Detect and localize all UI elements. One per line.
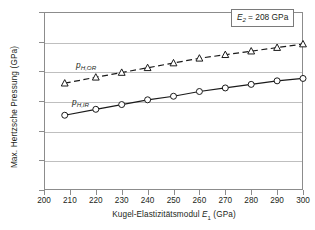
- data-point-marker: [274, 44, 281, 50]
- data-point-marker: [274, 78, 280, 84]
- data-point-marker: [145, 97, 151, 103]
- x-axis-title: Kugel-Elastizitätsmodul E1 (GPa): [44, 210, 304, 221]
- series-line-p_H,IR: [65, 78, 303, 115]
- series-line-p_H,OR: [65, 44, 303, 83]
- data-point-marker: [93, 106, 99, 112]
- x-axis-tick-mark: [70, 190, 71, 195]
- x-axis-tick-mark: [96, 190, 97, 195]
- annotation-subscript: 2: [243, 16, 246, 23]
- x-axis-tick-mark: [174, 190, 175, 195]
- x-axis-title-unit: (GPa): [211, 210, 236, 219]
- x-axis-tick-mark: [44, 190, 45, 195]
- data-point-marker: [300, 75, 306, 81]
- data-point-marker: [196, 55, 203, 61]
- x-axis-tick-mark: [303, 190, 304, 195]
- hertzian-pressure-chart: Max. Hertzsche Pressung (GPa) 2,002,252,…: [0, 0, 315, 230]
- series-label-ph-or: pH,OR: [76, 60, 96, 70]
- series-label-ph-ir: pH,IR: [72, 97, 89, 107]
- annotation-value: = 208 GPa: [248, 12, 288, 22]
- series-label-subscript: H,OR: [81, 64, 96, 71]
- data-point-marker: [248, 81, 254, 87]
- x-axis-tick-mark: [277, 190, 278, 195]
- x-axis-tick-mark: [199, 190, 200, 195]
- x-axis-tick-mark: [225, 190, 226, 195]
- data-point-marker: [300, 40, 307, 46]
- x-axis-tick-mark: [148, 190, 149, 195]
- data-point-marker: [196, 89, 202, 95]
- x-axis-tick-mark: [251, 190, 252, 195]
- x-axis-title-main: Kugel-Elastizitätsmodul: [112, 210, 202, 219]
- series-label-symbol: p: [76, 60, 81, 70]
- series-label-symbol: p: [72, 97, 77, 107]
- x-axis-tick-label: 300: [283, 196, 315, 205]
- x-axis-tick-mark: [122, 190, 123, 195]
- data-point-marker: [119, 102, 125, 108]
- data-point-marker: [170, 59, 177, 65]
- annotation-symbol: E: [237, 12, 243, 22]
- y-axis-title: Max. Hertzsche Pressung (GPa): [8, 12, 22, 202]
- annotation-e2-box: E2= 208 GPa: [231, 9, 294, 27]
- data-point-marker: [222, 85, 228, 91]
- data-point-marker: [171, 93, 177, 99]
- data-point-marker: [62, 112, 68, 118]
- series-label-subscript: H,IR: [77, 101, 89, 108]
